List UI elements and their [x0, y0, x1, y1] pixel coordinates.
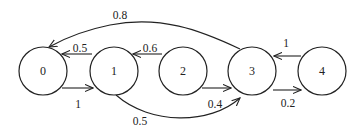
edge-label-0-to-1: 1	[75, 98, 81, 110]
edge-label-3-to-4: 0.2	[281, 97, 296, 109]
state-node-1: 1	[90, 47, 138, 95]
edge-label-3-to-0: 0.8	[113, 9, 128, 21]
edge-label-2-to-1: 0.6	[143, 42, 158, 54]
state-node-2: 2	[159, 47, 207, 95]
state-label: 1	[111, 64, 117, 78]
state-node-0: 0	[19, 47, 67, 95]
state-label: 2	[180, 64, 186, 78]
state-label: 4	[319, 64, 325, 78]
state-label: 0	[40, 64, 46, 78]
edge-label-2-to-3: 0.4	[208, 98, 223, 110]
state-node-3: 3	[228, 47, 276, 95]
edge-label-1-to-3: 0.5	[133, 115, 148, 127]
edge-label-4-to-3: 1	[283, 37, 289, 49]
state-node-4: 4	[298, 47, 346, 95]
edge-label-1-to-0: 0.5	[73, 42, 88, 54]
state-label: 3	[249, 64, 255, 78]
state-diagram: 01234 0.510.60.40.50.810.2	[0, 0, 364, 134]
